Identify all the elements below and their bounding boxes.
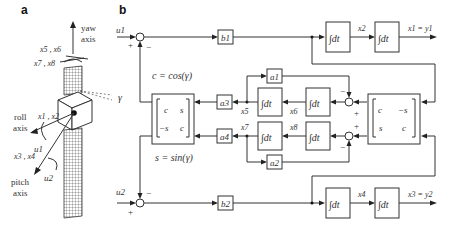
- panel-a: a yaw axis x5 , x6 x7 , x8 γ roll axis x…: [11, 3, 123, 218]
- x5-label: x5: [240, 107, 249, 116]
- x34-label: x3 , x4: [13, 152, 35, 161]
- arrow-icon: [430, 35, 437, 40]
- arrow-icon: [212, 201, 218, 206]
- integrator-top-1-label: ∫dt: [328, 33, 340, 45]
- panel-a-label: a: [21, 3, 28, 17]
- pitch-axis-label-2: axis: [13, 188, 28, 198]
- matrix-left-c21: −s: [159, 123, 169, 133]
- sum2-minus: −: [340, 86, 345, 96]
- arrow-icon: [194, 134, 200, 139]
- sum4-plus: +: [128, 207, 133, 217]
- integrator-x5-label: ∫dt: [260, 98, 272, 110]
- gain-b1-label: b1: [221, 33, 230, 43]
- matrix-right-c11: c: [378, 105, 382, 115]
- x12-label: x1 , x2: [37, 112, 59, 121]
- y2-output-label: x3 = y2: [407, 190, 433, 199]
- upper-solar-panel: [64, 66, 82, 95]
- panel-b-label: b: [119, 3, 126, 17]
- roll-axis-label-2: axis: [13, 123, 28, 133]
- matrix-right-c21: s: [379, 123, 383, 133]
- arrow-icon: [353, 134, 359, 139]
- roll-rotation-arc: [41, 122, 46, 140]
- x78-label: x7 , x8: [33, 59, 55, 68]
- yaw-arrow-icon: [70, 21, 76, 28]
- matrix-left-c22: c: [180, 123, 184, 133]
- x7-label: x7: [240, 123, 250, 132]
- diagram-canvas: a yaw axis x5 , x6 x7 , x8 γ roll axis x…: [0, 0, 451, 230]
- arrow-icon: [319, 35, 325, 40]
- yaw-axis-label-1: yaw: [81, 23, 96, 33]
- arrow-icon: [138, 193, 143, 199]
- arrow-icon: [421, 100, 427, 105]
- gain-b2-label: b2: [221, 199, 231, 209]
- arrow-icon: [138, 41, 143, 47]
- gamma-label: γ: [118, 92, 123, 103]
- sum2-plus: +: [354, 108, 359, 118]
- roll-axis-label-1: roll: [14, 112, 27, 122]
- sum3-minus: −: [340, 142, 345, 152]
- u2-label-a: u2: [44, 173, 54, 183]
- matrix-left-c12: s: [180, 105, 184, 115]
- arrow-icon: [232, 134, 238, 139]
- arrow-icon: [261, 160, 267, 165]
- lower-solar-panel: [64, 128, 82, 218]
- arrow-icon: [261, 74, 267, 79]
- pitch-rotation-arc: [48, 158, 57, 170]
- x56-label: x5 , x6: [39, 45, 61, 54]
- integrator-x6-label: ∫dt: [308, 98, 320, 110]
- u1-label-a: u1: [34, 144, 43, 154]
- arrow-icon: [130, 35, 136, 40]
- x2-label: x2: [357, 24, 366, 33]
- arrow-icon: [330, 134, 336, 139]
- arrow-icon: [194, 100, 200, 105]
- gain-a4-label: a4: [220, 132, 230, 142]
- arrow-icon: [330, 100, 336, 105]
- gain-a3-label: a3: [220, 98, 230, 108]
- arrow-icon: [319, 201, 325, 206]
- arrow-icon: [353, 100, 359, 105]
- panel-b: b u1 + − b1 ∫dt x2 ∫dt x1 = y1 c = cos(γ…: [116, 3, 437, 218]
- arrow-icon: [282, 100, 288, 105]
- branch-node-bottom: [311, 202, 314, 205]
- summing-junction-2: [345, 98, 353, 106]
- arrow-icon: [130, 201, 136, 206]
- arrow-icon: [421, 134, 427, 139]
- summing-junction-4: [136, 199, 144, 207]
- gamma-line-1: [80, 91, 112, 95]
- x4-label: x4: [357, 190, 366, 199]
- arrow-icon: [430, 201, 437, 206]
- c-equation: c = cos(γ): [152, 70, 193, 82]
- y1-output-label: x1 = y1: [407, 24, 433, 33]
- yaw-axis-label-2: axis: [81, 34, 96, 44]
- integrator-x7-label: ∫dt: [260, 132, 272, 144]
- x6-label: x6: [289, 107, 298, 116]
- pitch-arrow-icon: [34, 167, 41, 175]
- arrow-icon: [369, 35, 375, 40]
- summing-junction-1: [136, 33, 144, 41]
- matrix-right-c12: −s: [398, 105, 408, 115]
- summing-junction-3: [345, 132, 353, 140]
- arrow-icon: [347, 140, 352, 146]
- integrator-top-2-label: ∫dt: [377, 33, 389, 45]
- x8-label: x8: [289, 123, 298, 132]
- u1-input-label: u1: [116, 25, 125, 35]
- pitch-axis-label-1: pitch: [11, 177, 29, 187]
- integrator-bottom-2-label: ∫dt: [377, 199, 389, 211]
- matrix-left-c11: c: [164, 105, 168, 115]
- sum4-minus: −: [146, 188, 151, 198]
- arrow-icon: [212, 35, 218, 40]
- sum3-plus: +: [354, 121, 359, 131]
- sum1-minus: −: [146, 42, 151, 52]
- u2-input-label: u2: [116, 187, 126, 197]
- integrator-x8-label: ∫dt: [308, 132, 320, 144]
- integrator-bottom-1-label: ∫dt: [328, 199, 340, 211]
- matrix-right-c22: c: [402, 123, 406, 133]
- gain-a1-label: a1: [270, 72, 279, 82]
- sum1-plus: +: [128, 40, 133, 50]
- arrow-icon: [347, 92, 352, 98]
- yaw-cross-1: [66, 56, 88, 59]
- s-equation: s = sin(γ): [155, 152, 194, 164]
- arrow-icon: [232, 100, 238, 105]
- roll-arrow-icon: [30, 128, 38, 134]
- arrow-icon: [282, 134, 288, 139]
